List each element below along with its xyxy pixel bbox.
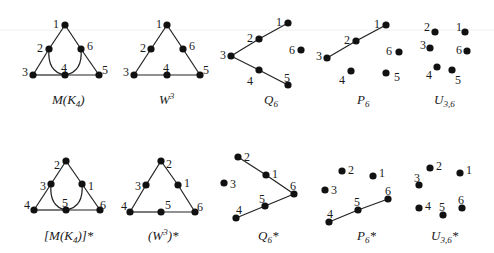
graph-vertex (220, 179, 227, 186)
vertex-label: 6 (456, 43, 462, 57)
graph-vertex (347, 67, 354, 74)
vertex-label: 3 (316, 49, 322, 63)
caption-subscript: 6 (273, 99, 278, 109)
caption-suffix: * (272, 228, 279, 243)
vertex-label: 4 (247, 74, 253, 88)
vertex-label: 1 (184, 176, 190, 190)
vertex-label: 3 (40, 179, 46, 193)
graph-vertex (323, 54, 330, 61)
graph-vertex (463, 47, 470, 54)
vertex-label: 5 (62, 196, 68, 210)
vertex-label: 5 (203, 63, 209, 77)
vertex-label: 1 (466, 163, 472, 177)
graph-vertex (284, 19, 291, 26)
graph-P6: 123456P6 (316, 17, 403, 109)
graph-vertex (77, 45, 84, 52)
vertex-label: 4 (61, 61, 67, 75)
graph-vertex (147, 45, 154, 52)
graph-vertex (456, 169, 463, 176)
graph-U36: 123456U3,6 (420, 20, 471, 109)
graph-edge (327, 41, 356, 58)
vertex-label: 4 (236, 203, 242, 217)
vertex-label: 6 (197, 200, 203, 214)
graph-P6_dual: 213654P6* (321, 163, 391, 245)
vertex-label: 3 (22, 65, 28, 79)
graph-vertex (157, 157, 164, 164)
graph-vertex (382, 21, 389, 28)
graph-edge (356, 25, 386, 41)
graph-edge (65, 25, 81, 49)
vertex-label: 5 (259, 192, 265, 206)
vertex-label: 2 (247, 31, 253, 45)
caption-main: P (356, 92, 365, 107)
graph-vertex (45, 45, 52, 52)
graph-vertex (369, 172, 376, 179)
graph-caption: P6 (356, 92, 370, 109)
graph-edge (358, 199, 388, 210)
graph-edge (238, 157, 266, 175)
vertex-label: 3 (230, 177, 236, 191)
graph-vertex (255, 66, 262, 73)
vertex-label: 1 (272, 167, 278, 181)
graph-figure: 126345M(K4)126345W3123456Q6123456P612345… (0, 0, 494, 253)
graph-caption: (W3)* (148, 227, 179, 243)
graph-vertex (29, 71, 36, 78)
vertex-label: 4 (163, 61, 169, 75)
graph-vertex (426, 164, 433, 171)
graph-vertex (426, 44, 433, 51)
caption-subscript: 3,6 (439, 235, 452, 245)
vertex-label: 2 (344, 33, 350, 47)
caption-suffix: )* (167, 228, 179, 243)
vertex-label: 6 (189, 39, 195, 53)
vertex-label: 2 (348, 163, 354, 177)
graph-caption: W3 (159, 91, 175, 107)
vertex-label: 6 (386, 44, 392, 58)
graph-vertex (262, 171, 269, 178)
vertex-label: 5 (165, 198, 171, 212)
graph-vertex (174, 181, 181, 188)
vertex-label: 4 (327, 207, 333, 221)
vertex-label: 5 (102, 63, 108, 77)
vertex-label: 2 (424, 20, 430, 34)
graphs-layer: 126345M(K4)126345W3123456Q6123456P612345… (22, 15, 472, 245)
vertex-label: 4 (426, 68, 432, 82)
caption-main: P (356, 228, 365, 243)
graph-vertex (47, 180, 54, 187)
vertex-label: 5 (284, 71, 290, 85)
vertex-label: 6 (87, 39, 93, 53)
caption-subscript: 6 (365, 99, 370, 109)
vertex-label: 3 (220, 48, 226, 62)
graph-vertex (30, 206, 37, 213)
graph-caption: U3,6 (434, 92, 455, 109)
vertex-label: 5 (455, 73, 461, 87)
graph-vertex (62, 157, 69, 164)
graph-W3_dual: 231456(W3)* (121, 157, 203, 243)
graph-caption: Q6* (258, 228, 279, 245)
graph-vertex (227, 52, 234, 59)
vertex-label: 3 (414, 171, 420, 185)
graph-vertex (352, 37, 359, 44)
vertex-label: 5 (439, 200, 445, 214)
graph-curved-edge (66, 184, 82, 210)
graph-MK4: 126345M(K4) (22, 17, 108, 109)
vertex-label: 6 (290, 179, 296, 193)
graph-caption: [M(K4)]* (44, 228, 94, 245)
graph-Q6: 123456Q6 (220, 15, 305, 109)
graph-vertex (297, 46, 304, 53)
graph-Q6_dual: 216354Q6* (220, 150, 297, 245)
graph-edge (66, 161, 82, 184)
graph-vertex (415, 204, 422, 211)
vertex-label: 1 (88, 179, 94, 193)
graph-vertex (78, 180, 85, 187)
caption-superscript: 3 (169, 91, 175, 101)
graph-edge (265, 194, 294, 206)
vertex-label: 4 (339, 73, 345, 87)
caption-main: (W (148, 228, 164, 243)
graph-edge (329, 210, 358, 222)
vertex-label: 1 (53, 17, 59, 31)
vertex-label: 2 (436, 159, 442, 173)
graph-vertex (234, 153, 241, 160)
vertex-label: 4 (121, 199, 127, 213)
graph-MK4_dual: 231456[M(K4)]* (24, 157, 106, 245)
vertex-label: 3 (420, 38, 426, 52)
